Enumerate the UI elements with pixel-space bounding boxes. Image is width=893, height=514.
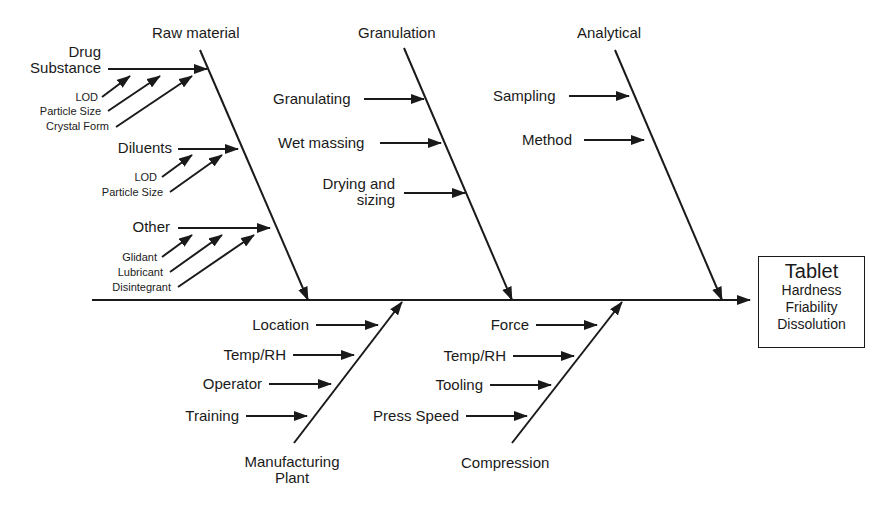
category-manufacturing-plant: Manufacturing Plant (236, 454, 348, 486)
category-raw-material: Raw material (152, 25, 240, 41)
sub-cause-diluents-particle-size: Particle Size (80, 187, 163, 199)
cause-sampling: Sampling (493, 88, 556, 104)
cause-drying-sizing: Drying and sizing (300, 176, 395, 208)
category-manufacturing-plant-line2: Plant (236, 470, 348, 486)
arrow-disintegrant (178, 235, 254, 287)
cause-wet-massing: Wet massing (278, 135, 364, 151)
cause-temp-rh-compression: Temp/RH (420, 348, 506, 364)
bone-granulation (404, 48, 512, 300)
bone-analytical (615, 50, 722, 300)
sub-cause-diluents-lod: LOD (100, 172, 157, 184)
arrow-glidant (162, 235, 192, 257)
cause-drying-sizing-line2: sizing (300, 192, 395, 208)
effect-friability: Friability (759, 299, 864, 316)
sub-cause-particle-size: Particle Size (20, 106, 101, 118)
cause-diluents: Diluents (90, 140, 172, 156)
category-analytical: Analytical (577, 25, 641, 41)
arrow-diluents-particle-size (170, 155, 222, 192)
sub-cause-glidant: Glidant (100, 252, 157, 264)
sub-cause-crystal-form: Crystal Form (20, 121, 109, 133)
category-compression: Compression (461, 455, 549, 471)
category-manufacturing-plant-line1: Manufacturing (236, 454, 348, 470)
bone-raw-material (200, 50, 308, 300)
cause-other: Other (100, 219, 170, 235)
cause-location: Location (220, 317, 309, 333)
cause-drying-sizing-line1: Drying and (300, 176, 395, 192)
cause-training: Training (160, 408, 239, 424)
cause-drug-substance-line2: Substance (20, 60, 101, 76)
sub-cause-disintegrant: Disintegrant (80, 282, 171, 294)
sub-cause-lubricant: Lubricant (90, 267, 163, 279)
cause-drug-substance: Drug Substance (20, 44, 101, 76)
cause-operator: Operator (180, 376, 262, 392)
cause-temp-rh-plant: Temp/RH (200, 347, 286, 363)
effect-box: Tablet Hardness Friability Dissolution (758, 256, 865, 348)
effect-hardness: Hardness (759, 282, 864, 299)
category-granulation: Granulation (358, 25, 436, 41)
cause-granulating: Granulating (273, 91, 351, 107)
cause-method: Method (522, 132, 572, 148)
effect-title: Tablet (759, 260, 864, 282)
arrow-lubricant (170, 235, 222, 272)
cause-drug-substance-line1: Drug (20, 44, 101, 60)
arrow-crystal-form (116, 76, 192, 127)
arrow-lod (102, 76, 130, 97)
cause-tooling: Tooling (400, 377, 483, 393)
effect-dissolution: Dissolution (759, 316, 864, 333)
sub-cause-lod: LOD (40, 92, 98, 104)
arrow-diluents-lod (162, 155, 192, 177)
cause-press-speed: Press Speed (350, 408, 459, 424)
cause-force: Force (450, 317, 529, 333)
arrow-particle-size (108, 76, 160, 111)
